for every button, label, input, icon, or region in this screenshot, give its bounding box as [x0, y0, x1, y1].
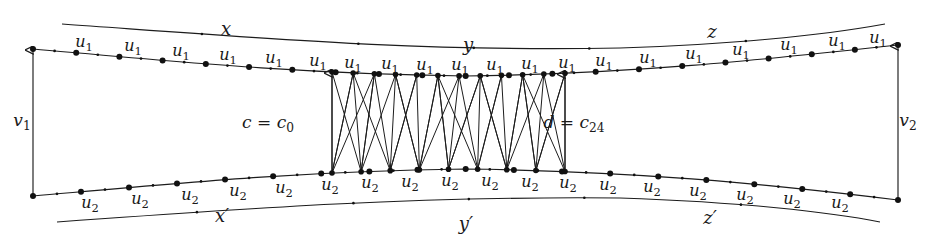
outer-arc-label-bottom: z′ — [702, 207, 717, 228]
zigzag-node-bottom — [417, 167, 423, 173]
outer-arc-label-top: z — [706, 21, 717, 42]
chain-vertex-top — [722, 60, 728, 66]
edge-label-u1: u1 — [521, 54, 539, 76]
zigzag-edge — [419, 76, 438, 170]
edge-label-u2: u2 — [81, 193, 99, 215]
zigzag-edge — [332, 73, 353, 173]
vertex-chain-bottom — [33, 169, 898, 200]
zigzag-edge — [459, 76, 478, 169]
edge-label-u2: u2 — [783, 189, 801, 211]
chain-midpoint-tick-top — [832, 51, 835, 54]
chain-midpoint-tick-top — [443, 74, 446, 77]
edge-label-u1: u1 — [219, 45, 237, 67]
edge-label-u2: u2 — [181, 185, 199, 207]
zigzag-edge — [480, 76, 506, 170]
zigzag-node-bottom — [387, 168, 393, 174]
chain-midpoint-tick-bottom — [56, 193, 59, 196]
side-arrow-label-v1: v1 — [13, 110, 30, 133]
edge-label-u1: u1 — [869, 28, 887, 50]
chain-vertex-bottom — [799, 186, 805, 192]
chain-vertex-top — [116, 54, 122, 60]
edge-label-u2: u2 — [831, 193, 849, 215]
edge-label-u1: u1 — [416, 55, 434, 77]
outer-arc-label-top: x — [221, 18, 231, 39]
edge-label-u1: u1 — [639, 48, 657, 70]
chain-midpoint-tick-bottom — [873, 196, 876, 199]
cut-label-d: d = c24 — [544, 112, 605, 135]
outer-arc-tick-top — [588, 47, 591, 50]
chain-midpoint-tick-bottom — [248, 177, 251, 180]
chain-vertex-top — [30, 46, 36, 52]
edge-label-u2: u2 — [131, 189, 149, 211]
edge-label-u1: u1 — [595, 51, 613, 73]
chain-vertex-bottom — [895, 197, 901, 203]
outer-arc-tick-bottom — [583, 196, 586, 199]
edge-label-u2: u2 — [689, 181, 707, 203]
chain-vertex-top — [766, 56, 772, 62]
edge-label-u2: u2 — [599, 175, 617, 197]
chain-vertex-top — [852, 47, 858, 53]
chain-midpoint-tick-top — [96, 53, 99, 56]
zigzag-edge — [353, 73, 390, 171]
chain-midpoint-tick-top — [313, 70, 316, 73]
zigzag-node-top — [372, 71, 378, 77]
edge-label-u1: u1 — [344, 53, 362, 75]
zigzag-edge — [478, 76, 481, 169]
edge-label-u2: u2 — [521, 172, 539, 194]
outer-arc-tick-bottom — [196, 211, 199, 214]
figure-labels: u1u1u1u1u1u1u1u1u1u1u1u1u1u1u1u1u1u1u1u1… — [13, 18, 916, 234]
edge-label-u2: u2 — [736, 185, 754, 207]
chain-vertex-top — [506, 72, 512, 78]
chain-midpoint-tick-bottom — [104, 188, 107, 191]
outer-arc-tick-top — [357, 42, 360, 45]
zigzag-edge — [374, 74, 390, 171]
chain-vertex-bottom — [222, 177, 228, 183]
chain-midpoint-tick-bottom — [681, 177, 684, 180]
zigzag-node-top — [329, 69, 335, 75]
edge-label-u1: u1 — [124, 36, 142, 58]
edge-label-u2: u2 — [643, 177, 661, 199]
chain-midpoint-tick-top — [53, 50, 56, 53]
chain-midpoint-tick-top — [659, 66, 662, 69]
edge-label-u2: u2 — [275, 178, 293, 200]
edge-label-u2: u2 — [401, 172, 419, 194]
cut-arrows — [332, 73, 565, 173]
chain-midpoint-tick-top — [399, 73, 402, 76]
outer-arc-label-bottom: y′ — [458, 213, 473, 234]
chain-vertex-bottom — [655, 173, 661, 179]
chain-vertex-bottom — [847, 191, 853, 197]
outer-arc-tick-bottom — [352, 202, 355, 205]
cut-label-c: c = c0 — [242, 112, 294, 135]
zigzag-node-bottom — [504, 167, 510, 173]
annular-strip-diagram: u1u1u1u1u1u1u1u1u1u1u1u1u1u1u1u1u1u1u1u1… — [0, 0, 931, 245]
chain-vertex-bottom — [703, 177, 709, 183]
zigzag-node-top — [435, 73, 441, 79]
zigzag-node-top — [477, 73, 483, 79]
zigzag-edge — [507, 74, 544, 170]
zigzag-edge — [507, 75, 523, 170]
chain-midpoint-tick-top — [616, 69, 619, 72]
chain-vertex-bottom — [30, 193, 36, 199]
chain-midpoint-tick-bottom — [633, 174, 636, 177]
zigzag-edge — [417, 75, 420, 170]
edge-label-u2: u2 — [229, 181, 247, 203]
chain-midpoint-tick-bottom — [344, 171, 347, 174]
edge-label-u2: u2 — [441, 171, 459, 193]
chain-midpoint-tick-bottom — [825, 190, 828, 193]
figure-root: u1u1u1u1u1u1u1u1u1u1u1u1u1u1u1u1u1u1u1u1… — [0, 0, 931, 245]
edge-label-u1: u1 — [381, 54, 399, 76]
chain-vertex-top — [289, 67, 295, 73]
chain-vertex-top — [160, 57, 166, 63]
chain-midpoint-tick-bottom — [152, 184, 155, 187]
zigzag-node-top — [541, 71, 547, 77]
outer-arc-tick-bottom — [468, 198, 471, 201]
edge-label-u1: u1 — [451, 55, 469, 77]
chain-vertex-top — [809, 51, 815, 57]
chain-midpoint-tick-bottom — [585, 171, 588, 174]
outer-arc-tick-top — [745, 40, 748, 43]
edge-label-u1: u1 — [265, 48, 283, 70]
chain-midpoint-tick-bottom — [777, 185, 780, 188]
zigzag-node-bottom — [533, 168, 539, 174]
outer-arc-label-top: y — [462, 34, 474, 55]
edge-label-u1: u1 — [732, 40, 750, 62]
